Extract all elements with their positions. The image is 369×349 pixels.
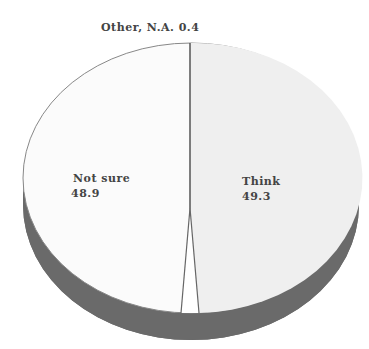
label-not-sure-value: 48.9 [71, 187, 100, 200]
label-other: Other, N.A. 0.4 [101, 21, 199, 34]
pie-chart [0, 0, 369, 349]
label-think-value: 49.3 [242, 190, 271, 203]
label-think-name: Think [242, 175, 280, 188]
label-not-sure-name: Not sure [73, 172, 130, 185]
